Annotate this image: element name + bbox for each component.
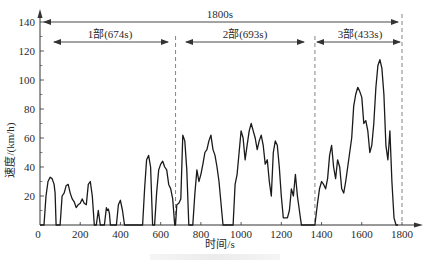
annotations: 1800s 1部(674s) 2部(693s) 3部(433s) [44,8,400,42]
x-tick-label: 0 [35,228,41,240]
x-axis-title: 时间/s [205,238,234,250]
x-tick-label: 200 [72,228,89,240]
figure-caption-faint [150,254,280,260]
y-tick-label: 40 [24,161,36,173]
phase-boundaries [176,14,402,225]
total-duration-label: 1800s [207,8,233,20]
x-tick-label: 1200 [270,228,293,240]
y-tick-label: 60 [24,132,36,144]
y-axis-title: 速度/(km/h) [3,122,17,177]
x-tick-label: 1400 [311,228,334,240]
part3-label: 3部(433s) [338,27,383,41]
part2-label: 2部(693s) [223,27,268,41]
x-tick-label: 1600 [351,228,374,240]
y-tick-label: 80 [24,103,36,115]
x-tick-label: 1800 [391,228,414,240]
y-tick-label: 120 [19,45,36,57]
y-tick-label: 140 [19,16,36,28]
y-axis-arrow-icon [38,9,43,18]
speed-time-chart: 20406080100120140 0200400600800100012001… [0,0,431,265]
x-tick-label: 600 [152,228,169,240]
y-tick-label: 20 [24,190,36,202]
y-tick-label: 100 [19,74,36,86]
x-tick-label: 400 [112,228,129,240]
speed-series-line [40,60,398,225]
x-axis-arrow-icon [414,223,423,228]
part1-label: 1部(674s) [88,27,133,41]
